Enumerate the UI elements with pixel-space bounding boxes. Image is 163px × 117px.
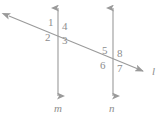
geometry-canvas [0,0,163,117]
angle-label-3: 3 [62,35,68,46]
angle-label-8: 8 [117,48,123,59]
line-label-m: m [54,103,62,114]
angle-label-4: 4 [62,21,68,32]
angle-label-1: 1 [48,17,54,28]
angle-label-7: 7 [117,63,123,74]
angle-label-5: 5 [102,45,108,56]
line-label-n: n [109,103,115,114]
geometry-figure: 1 2 3 4 5 6 7 8 m n l [0,0,163,117]
angle-label-6: 6 [100,60,106,71]
angle-label-2: 2 [45,32,51,43]
line-label-l: l [152,66,155,77]
